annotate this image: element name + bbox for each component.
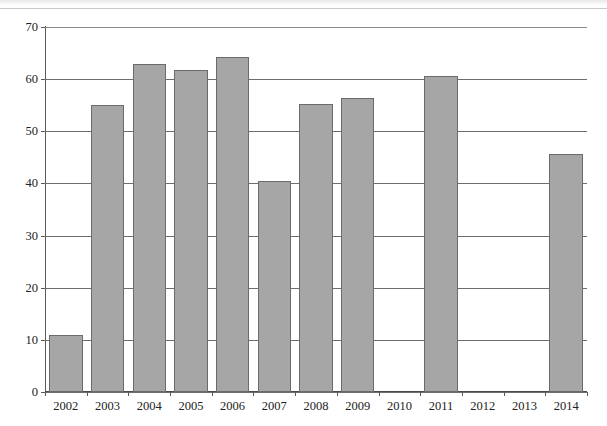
- x-tick-label-2004: 2004: [137, 399, 162, 414]
- x-tick-label-2005: 2005: [178, 399, 203, 414]
- y-tick-label-0: 0: [32, 385, 38, 400]
- x-tick-mark: [504, 392, 505, 396]
- x-tick-label-2009: 2009: [345, 399, 370, 414]
- scan-artifact-top: [0, 0, 607, 5]
- x-tick-label-2014: 2014: [554, 399, 579, 414]
- x-tick-label-2013: 2013: [512, 399, 537, 414]
- x-tick-label-2007: 2007: [262, 399, 287, 414]
- bar-2005: [174, 70, 207, 392]
- x-tick-mark: [253, 392, 254, 396]
- x-tick-mark: [545, 392, 546, 396]
- x-tick-label-2006: 2006: [220, 399, 245, 414]
- bars-layer: [45, 27, 587, 392]
- x-tick-label-2012: 2012: [470, 399, 495, 414]
- x-tick-mark: [128, 392, 129, 396]
- bar-2003: [91, 105, 124, 392]
- bar-2002: [49, 335, 82, 392]
- y-tick-label-10: 10: [26, 332, 39, 347]
- y-tick-label-30: 30: [26, 228, 39, 243]
- x-tick-mark: [295, 392, 296, 396]
- bar-2004: [133, 64, 166, 393]
- x-tick-label-2008: 2008: [304, 399, 329, 414]
- bar-chart-figure: 010203040506070 200220032004200520062007…: [0, 0, 607, 426]
- scan-rule-top: [0, 8, 607, 9]
- x-tick-mark: [87, 392, 88, 396]
- x-tick-mark: [462, 392, 463, 396]
- x-tick-mark: [170, 392, 171, 396]
- x-tick-mark: [587, 392, 588, 396]
- y-tick-label-70: 70: [26, 20, 39, 35]
- x-tick-mark: [337, 392, 338, 396]
- bar-2006: [216, 57, 249, 392]
- bar-2014: [549, 154, 582, 392]
- y-tick-label-20: 20: [26, 280, 39, 295]
- bar-2011: [424, 76, 457, 392]
- plot-area: 010203040506070: [45, 27, 587, 392]
- y-tick-label-50: 50: [26, 124, 39, 139]
- x-tick-mark: [379, 392, 380, 396]
- x-tick-mark: [420, 392, 421, 396]
- x-tick-label-2010: 2010: [387, 399, 412, 414]
- bar-2009: [341, 98, 374, 392]
- y-tick-label-60: 60: [26, 72, 39, 87]
- bar-2007: [258, 181, 291, 392]
- bar-2008: [299, 104, 332, 392]
- x-tick-mark: [45, 392, 46, 396]
- x-tick-label-2002: 2002: [53, 399, 78, 414]
- y-tick-label-40: 40: [26, 176, 39, 191]
- x-axis-ticks: 2002200320042005200620072008200920102011…: [45, 392, 587, 426]
- x-tick-mark: [212, 392, 213, 396]
- x-tick-label-2011: 2011: [429, 399, 454, 414]
- x-tick-label-2003: 2003: [95, 399, 120, 414]
